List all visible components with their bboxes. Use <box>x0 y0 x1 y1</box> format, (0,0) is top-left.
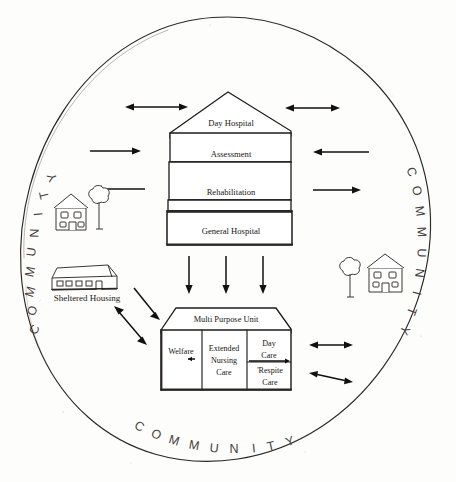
house-left-icon <box>54 194 88 230</box>
svg-text:T: T <box>37 190 52 201</box>
svg-text:U: U <box>415 248 429 258</box>
hospital-building: Day Hospital Assessment Rehabilitation G… <box>167 92 292 245</box>
svg-text:N: N <box>412 268 427 279</box>
community-label-right: C O M M U N I T Y <box>396 165 429 338</box>
hospital-floor-label-2: Rehabilitation <box>207 187 256 197</box>
hospital-floor-label-0: Day Hospital <box>208 118 254 128</box>
hospital-floor-label-1: Assessment <box>211 149 252 159</box>
svg-text:C: C <box>404 165 420 178</box>
svg-text:I: I <box>31 212 45 217</box>
svg-text:O: O <box>24 303 41 318</box>
arrow-mid-right-into-hospital <box>313 148 369 155</box>
svg-text:I: I <box>409 290 423 297</box>
figure-canvas: C O M M U N I T Y C O M M U N I T Y C O … <box>0 0 456 482</box>
multi-purpose-unit: Multi Purpose Unit Welfare Extended Nurs… <box>161 308 291 390</box>
svg-text:M: M <box>188 437 201 453</box>
mpu-cell-welfare: Welfare <box>168 347 194 356</box>
svg-text:M: M <box>167 432 181 448</box>
house-right-icon <box>367 254 404 292</box>
svg-text:U: U <box>24 246 39 257</box>
svg-text:Care: Care <box>261 351 277 360</box>
hospital-floor-label-3: General Hospital <box>202 226 261 236</box>
svg-text:Day: Day <box>262 339 276 348</box>
svg-text:Care: Care <box>216 368 232 377</box>
svg-text:M: M <box>414 226 429 237</box>
svg-text:C: C <box>26 322 43 336</box>
sheltered-housing-label: Sheltered Housing <box>54 293 121 303</box>
svg-text:U: U <box>209 441 219 456</box>
svg-text:T: T <box>266 439 277 454</box>
svg-text:Nursing: Nursing <box>211 356 237 365</box>
arrow-mid-left-into-hospital <box>90 147 141 154</box>
svg-text:Extended: Extended <box>209 344 240 353</box>
svg-text:M: M <box>22 265 38 278</box>
svg-text:O: O <box>149 426 164 443</box>
mpu-title: Multi Purpose Unit <box>194 315 259 324</box>
svg-text:O: O <box>409 184 425 197</box>
svg-text:M: M <box>412 205 427 217</box>
svg-text:I: I <box>251 441 256 455</box>
tree-right-icon <box>340 257 360 297</box>
arrow-hospital-to-unit-2 <box>222 256 229 294</box>
sheltered-housing-icon: Sheltered Housing <box>52 265 121 303</box>
arrow-top-left-double <box>125 104 188 111</box>
arrow-top-right-double <box>285 105 340 112</box>
svg-text:M: M <box>22 285 39 299</box>
arrow-hospital-to-unit-3 <box>259 256 266 294</box>
arrow-unit-right-double-lower <box>309 371 353 384</box>
arrow-housing-to-unit <box>134 288 160 320</box>
svg-text:N: N <box>27 228 41 238</box>
arrow-hospital-to-unit-1 <box>185 256 192 294</box>
arrow-lower-right-out <box>313 186 361 193</box>
svg-text:C: C <box>132 418 147 435</box>
svg-text:Y: Y <box>44 170 60 184</box>
arrow-housing-unit-double <box>114 306 147 345</box>
community-care-diagram: C O M M U N I T Y C O M M U N I T Y C O … <box>0 0 456 482</box>
arrow-unit-right-double-upper <box>309 342 353 349</box>
svg-text:N: N <box>229 442 238 456</box>
community-label-bottom: C O M M U N I T Y <box>132 418 297 456</box>
svg-text:'Respite: 'Respite <box>257 366 283 375</box>
tree-left-icon <box>89 185 109 229</box>
svg-text:Care: Care <box>262 378 278 387</box>
svg-text:Y: Y <box>396 323 413 337</box>
